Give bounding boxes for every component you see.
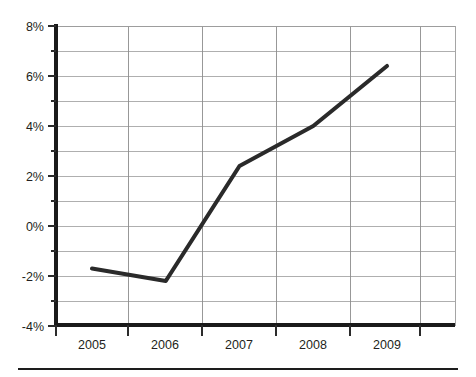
x-tick-label-2006: 2006 (151, 338, 179, 352)
y-tick-label-0: 0% (26, 220, 44, 234)
line-chart-figure: 8% 6% 4% 2% 0% -2% -4% 2005 2006 2007 20… (0, 0, 476, 377)
y-tick-label-4: 4% (26, 120, 44, 134)
x-tick-label-2008: 2008 (299, 338, 327, 352)
y-axis-tick-labels: 8% 6% 4% 2% 0% -2% -4% (22, 20, 44, 334)
x-tick-marks (56, 325, 420, 336)
y-tick-label-8: 8% (26, 20, 44, 34)
x-axis-tick-labels: 2005 2006 2007 2008 2009 (78, 338, 401, 352)
chart-canvas: 8% 6% 4% 2% 0% -2% -4% 2005 2006 2007 20… (0, 0, 476, 377)
x-tick-label-2009: 2009 (373, 338, 401, 352)
x-tick-label-2005: 2005 (78, 338, 106, 352)
y-tick-label-6: 6% (26, 70, 44, 84)
y-tick-label-2: 2% (26, 170, 44, 184)
x-tick-label-2007: 2007 (225, 338, 253, 352)
y-tick-label-neg4: -4% (22, 320, 44, 334)
y-tick-label-neg2: -2% (22, 270, 44, 284)
